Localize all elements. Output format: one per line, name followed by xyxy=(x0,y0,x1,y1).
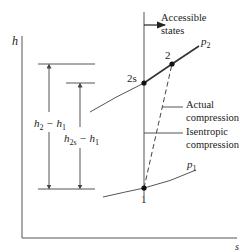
p2-label: p2 xyxy=(200,35,211,50)
y-axis-label: h xyxy=(12,34,18,48)
actual-compression-path xyxy=(144,64,172,188)
state-label-2: 2 xyxy=(165,49,171,61)
state-point-2s xyxy=(141,80,146,85)
state-label-2s: 2s xyxy=(127,72,137,84)
p2-isobar xyxy=(90,83,144,112)
accessible-states-label-2: states xyxy=(161,25,184,36)
h-s-diagram: h s Accessible states p2 p1 2s 2 1 Actua… xyxy=(0,0,250,252)
p1-isobar xyxy=(103,170,196,197)
p1-label: p1 xyxy=(186,158,197,173)
actual-compression-label-2: compression xyxy=(186,112,240,123)
state-label-1: 1 xyxy=(141,193,147,205)
dim-isen-label: h2s − h1 xyxy=(64,132,99,147)
isentropic-compression-label-2: compression xyxy=(186,139,240,150)
accessible-states-label-1: Accessible xyxy=(161,12,207,23)
isentropic-compression-label-1: Isentropic xyxy=(186,126,228,137)
state-point-1 xyxy=(141,185,146,190)
x-axis-label: s xyxy=(235,241,239,252)
actual-compression-label-1: Actual xyxy=(186,99,214,110)
dim-actual-label: h2 − h1 xyxy=(34,117,66,132)
state-point-2 xyxy=(169,61,174,66)
